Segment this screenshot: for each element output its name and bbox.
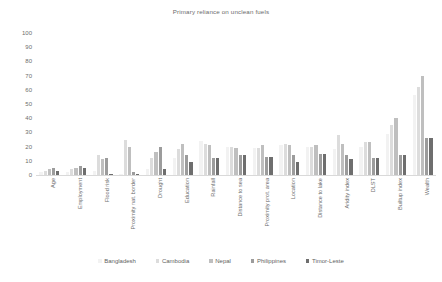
legend-item[interactable]: Philippines [251, 258, 286, 264]
bar [372, 158, 375, 175]
x-axis-category-label: Wealth [425, 178, 431, 195]
bar [261, 145, 264, 175]
chart-title: Primary reliance on unclean fuels [0, 8, 442, 15]
x-axis-category-label: Drought [158, 178, 164, 198]
bar [310, 147, 313, 175]
y-axis-tick-label: 70 [25, 73, 32, 79]
y-axis-tick-label: 100 [22, 30, 32, 36]
x-axis-category-label: Education [185, 178, 191, 203]
bar [83, 168, 86, 175]
bar [429, 138, 432, 175]
legend-swatch-icon [306, 259, 310, 263]
chart-legend: BangladeshCambodiaNepalPhilippinesTimor-… [0, 258, 442, 264]
bar [216, 158, 219, 175]
legend-item[interactable]: Bangladesh [98, 258, 136, 264]
bar [177, 149, 180, 175]
bar [199, 141, 202, 175]
bar-group [169, 33, 196, 175]
bar [257, 148, 260, 175]
bar-group [89, 33, 116, 175]
legend-item[interactable]: Nepal [209, 258, 231, 264]
bar [97, 155, 100, 175]
y-axis-tick-label: 60 [25, 87, 32, 93]
bar [376, 158, 379, 175]
y-axis-tick-label: 80 [25, 58, 32, 64]
legend-item[interactable]: Cambodia [156, 258, 189, 264]
x-axis-category-label: Employment [78, 178, 84, 209]
bar [359, 147, 362, 175]
bar [279, 145, 282, 175]
x-axis-category-label: Proximity nat. border [131, 178, 137, 230]
bar [349, 159, 352, 175]
y-axis-tick-label: 10 [25, 158, 32, 164]
bar-group [143, 33, 170, 175]
x-axis-category-label: Aridity index [345, 178, 351, 208]
bar [185, 155, 188, 175]
bar [181, 144, 184, 175]
y-axis-tick-label: 30 [25, 129, 32, 135]
bar [159, 147, 162, 175]
bar [204, 144, 207, 175]
bar [52, 168, 55, 175]
bar [101, 159, 104, 175]
x-axis-category-label: Age [51, 178, 57, 188]
chart-container: Primary reliance on unclean fuels 100908… [0, 0, 442, 282]
bar-group [303, 33, 330, 175]
bar [345, 155, 348, 175]
bar-group [63, 33, 90, 175]
x-axis-category-label: Flood risk [105, 178, 111, 202]
legend-swatch-icon [251, 259, 255, 263]
bar [105, 158, 108, 175]
bar [253, 148, 256, 175]
bar [284, 144, 287, 175]
x-axis-category-labels: AgeEmploymentFlood riskProximity nat. bo… [36, 176, 436, 252]
bar [234, 148, 237, 175]
bar-group [383, 33, 410, 175]
bar-group [116, 33, 143, 175]
legend-label: Nepal [215, 258, 231, 264]
bar-group [276, 33, 303, 175]
bar [333, 149, 336, 175]
x-axis-category-label: Distance to lake [318, 178, 324, 218]
bar [394, 118, 397, 175]
bar [243, 155, 246, 175]
bar-group [356, 33, 383, 175]
bar [292, 155, 295, 175]
bar [413, 95, 416, 175]
bar-group [329, 33, 356, 175]
bar [173, 158, 176, 175]
bar [399, 155, 402, 175]
bar [403, 155, 406, 175]
bar [337, 135, 340, 175]
y-axis-tick-label: 90 [25, 44, 32, 50]
legend-label: Philippines [257, 258, 286, 264]
legend-item[interactable]: Timor-Leste [306, 258, 344, 264]
x-axis-category-label: Location [291, 178, 297, 199]
bar [319, 154, 322, 175]
bar-group [36, 33, 63, 175]
bar [154, 152, 157, 175]
bar [226, 147, 229, 175]
bar-group [196, 33, 223, 175]
y-axis-tick-label: 50 [25, 101, 32, 107]
legend-swatch-icon [156, 259, 160, 263]
bar [417, 87, 420, 175]
bar [341, 144, 344, 175]
bar [230, 147, 233, 175]
bar-group [223, 33, 250, 175]
x-axis-category-label: Proximity prot. area [265, 178, 271, 227]
bar [208, 145, 211, 175]
bar [296, 162, 299, 175]
bar [288, 145, 291, 175]
plot-area: 1009080706050403020100 [36, 33, 436, 175]
bar [239, 155, 242, 175]
bar [364, 142, 367, 175]
x-axis-category-label: Builtup index [398, 178, 404, 210]
bar-group [249, 33, 276, 175]
legend-label: Cambodia [162, 258, 189, 264]
bar [323, 154, 326, 175]
bar [314, 145, 317, 175]
bar [124, 140, 127, 176]
x-axis-category-label: DLST [371, 178, 377, 192]
bar [74, 168, 77, 175]
